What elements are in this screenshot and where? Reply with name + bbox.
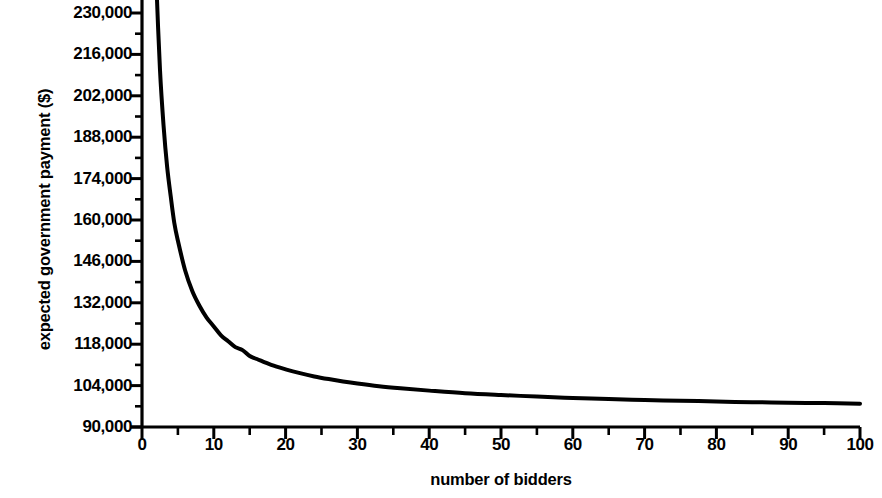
chart-figure: expected government payment ($) 90,00010…: [0, 0, 882, 498]
plot-area: [0, 0, 882, 498]
axis-lines: [131, 0, 860, 427]
data-series-line: [152, 0, 860, 404]
x-axis-ticks: [142, 427, 860, 439]
y-axis-ticks: [131, 13, 142, 427]
